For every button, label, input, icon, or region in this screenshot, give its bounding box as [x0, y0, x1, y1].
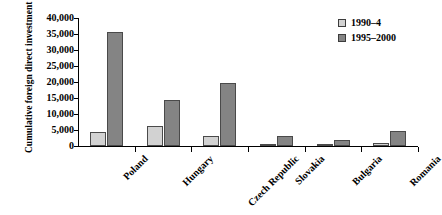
y-axis-tick [74, 82, 79, 83]
bar-romania-series-1 [373, 143, 389, 146]
y-axis-tick [74, 98, 79, 99]
x-axis-tick [191, 147, 192, 152]
y-axis-tick-label: 5,000 [52, 125, 75, 135]
legend-swatch-1995-2000-icon [338, 34, 346, 42]
y-axis-title-text: Cumulative foreign direct investment (mi… [24, 15, 35, 153]
x-axis-label-romania: Romania [407, 153, 442, 188]
x-axis-tick [135, 147, 136, 152]
x-axis-tick [418, 147, 419, 152]
bar-poland-series-2 [107, 32, 123, 146]
y-axis-title: Cumulative foreign direct investment (mi… [18, 14, 40, 154]
x-axis-label-hungary: Hungary [180, 153, 215, 188]
y-axis-tick-label: 15,000 [47, 93, 75, 103]
y-axis-tick [74, 130, 79, 131]
legend-swatch-1990-4-icon [338, 19, 346, 27]
x-axis-label-czech-republic: Czech Republic [245, 153, 300, 208]
y-axis-tick-label: 35,000 [47, 29, 75, 39]
x-axis-tick [361, 147, 362, 152]
bar-poland-series-1 [90, 132, 106, 146]
bar-czech-republic-series-2 [220, 83, 236, 146]
bar-bulgaria-series-1 [317, 144, 333, 146]
y-axis-tick-label: 25,000 [47, 61, 75, 71]
bar-hungary-series-2 [164, 100, 180, 146]
bar-slovakia-series-2 [277, 136, 293, 146]
y-axis-tick-label: 10,000 [47, 109, 75, 119]
bar-romania-series-2 [390, 131, 406, 146]
x-axis-label-poland: Poland [121, 153, 150, 182]
legend-item-1990-4: 1990–4 [338, 16, 396, 29]
legend-label-1995-2000: 1995–2000 [351, 33, 396, 43]
y-axis-tick-label: 40,000 [47, 13, 75, 23]
x-axis-label-bulgaria: Bulgaria [350, 153, 384, 187]
bar-czech-republic-series-1 [203, 136, 219, 146]
y-axis-tick-label: 20,000 [47, 77, 75, 87]
bar-hungary-series-1 [147, 126, 163, 146]
chart-legend: 1990–4 1995–2000 [338, 16, 396, 46]
x-axis-tick [248, 147, 249, 152]
bar-slovakia-series-1 [260, 144, 276, 146]
y-axis-tick-label: 30,000 [47, 45, 75, 55]
y-axis-tick [74, 34, 79, 35]
bar-bulgaria-series-2 [334, 140, 350, 146]
y-axis-tick [74, 114, 79, 115]
legend-item-1995-2000: 1995–2000 [338, 31, 396, 44]
y-axis-tick [74, 18, 79, 19]
legend-label-1990-4: 1990–4 [351, 18, 381, 28]
y-axis-tick [74, 146, 79, 147]
y-axis-tick [74, 66, 79, 67]
x-axis-tick [305, 147, 306, 152]
y-axis-tick [74, 50, 79, 51]
